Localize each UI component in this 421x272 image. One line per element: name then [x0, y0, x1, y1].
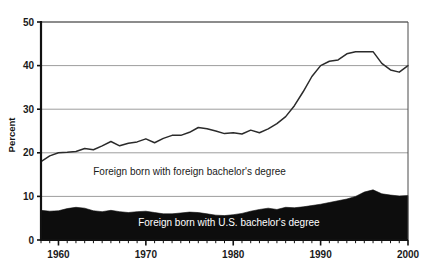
x-tick-label-1960: 1960 — [47, 249, 70, 260]
series-annotation-0: Foreign born with foreign bachelor's deg… — [93, 166, 286, 177]
x-tick-label-2000: 2000 — [397, 249, 420, 260]
chart-container: 01020304050 19601970198019902000 Percent… — [0, 0, 421, 272]
y-tick-label-0: 0 — [28, 235, 34, 246]
y-tick-label-20: 20 — [23, 147, 35, 158]
x-tick-label-1970: 1970 — [135, 249, 158, 260]
percent-foreign-born-bachelors-degree-chart: 01020304050 19601970198019902000 Percent… — [0, 0, 421, 272]
y-tick-label-30: 30 — [23, 104, 35, 115]
y-tick-label-40: 40 — [23, 60, 35, 71]
y-axis-title: Percent — [6, 117, 17, 153]
y-tick-label-50: 50 — [23, 17, 35, 28]
x-tick-label-1980: 1980 — [222, 249, 245, 260]
y-tick-label-10: 10 — [23, 191, 35, 202]
series-annotation-1: Foreign born with U.S. bachelor's degree — [138, 217, 320, 228]
x-tick-label-1990: 1990 — [309, 249, 332, 260]
